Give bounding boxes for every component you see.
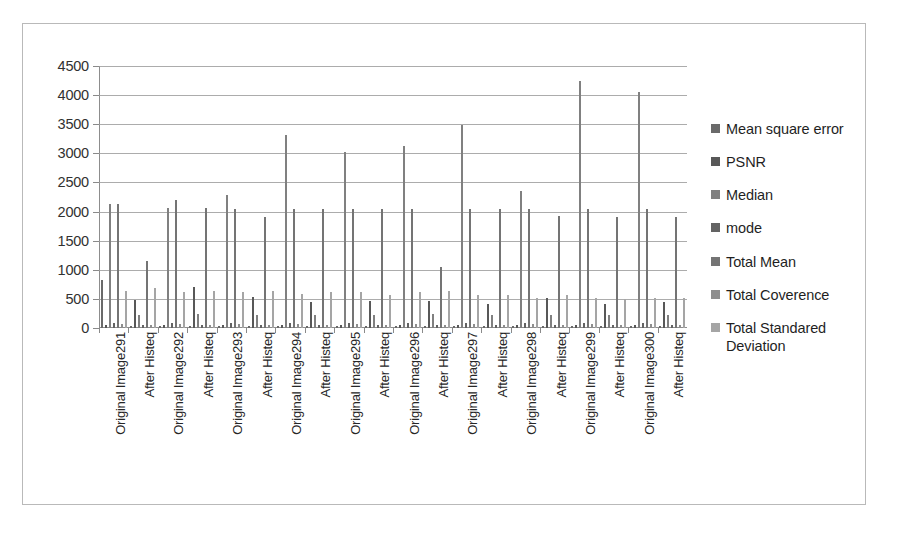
bar-group	[99, 66, 128, 328]
x-tick-label: After Histeq	[319, 332, 332, 398]
bar-chart: 450040003500300025002000150010005000 Ori…	[23, 24, 867, 506]
legend-swatch-icon	[711, 290, 720, 299]
bar	[167, 208, 169, 328]
x-tick-label: Original Image292	[172, 332, 185, 435]
bar	[134, 300, 136, 328]
bar-group	[305, 66, 334, 328]
bar	[117, 204, 119, 328]
bar-group	[275, 66, 304, 328]
x-tick-label: After Histeq	[261, 332, 274, 398]
x-tick-label: After Histeq	[378, 332, 391, 398]
bar-group	[422, 66, 451, 328]
x-label-slot: After Histeq	[364, 328, 393, 503]
x-tick-label: Original Image297	[466, 332, 479, 435]
bar	[587, 209, 589, 328]
bar	[285, 135, 287, 328]
bar	[608, 315, 610, 328]
bar-group	[364, 66, 393, 328]
bar	[499, 209, 501, 328]
x-tick-label: After Histeq	[202, 332, 215, 398]
bar	[491, 315, 493, 328]
x-tick-label: Original Image293	[231, 332, 244, 435]
bar	[550, 315, 552, 328]
legend-label: mode	[726, 219, 762, 237]
bar	[389, 295, 391, 328]
bar	[428, 301, 430, 328]
bar	[226, 195, 228, 328]
bar-group	[658, 66, 687, 328]
y-tick-label: 4000	[25, 88, 89, 103]
x-tick-label: Original Image299	[584, 332, 597, 435]
bar	[566, 295, 568, 328]
x-tick-label: After Histeq	[437, 332, 450, 398]
legend-item[interactable]: PSNR	[711, 153, 861, 171]
y-tick-label: 1000	[25, 263, 89, 278]
bar	[352, 209, 354, 328]
plot-area	[99, 66, 687, 328]
legend-label: PSNR	[726, 153, 766, 171]
legend-item[interactable]: Median	[711, 186, 861, 204]
bar	[310, 302, 312, 328]
bar	[654, 298, 656, 328]
x-tick-label: Original Image294	[290, 332, 303, 435]
bar	[616, 217, 618, 328]
bar-group	[187, 66, 216, 328]
bar	[507, 295, 509, 328]
bar-group	[452, 66, 481, 328]
x-label-slot: Original Image293	[217, 328, 246, 503]
legend-item[interactable]: Mean square error	[711, 120, 861, 138]
legend-swatch-icon	[711, 323, 720, 332]
x-tick-label: Original Image291	[114, 332, 127, 435]
legend-swatch-icon	[711, 257, 720, 266]
x-label-slot: After Histeq	[187, 328, 216, 503]
legend-item[interactable]: Total Coverence	[711, 286, 861, 304]
bar-group	[481, 66, 510, 328]
bar	[109, 204, 111, 328]
x-tick-label: After Histeq	[613, 332, 626, 398]
bar	[477, 295, 479, 328]
bar	[528, 209, 530, 328]
bar	[536, 298, 538, 328]
bar	[487, 304, 489, 328]
bar	[213, 291, 215, 328]
y-tick-label: 3000	[25, 146, 89, 161]
y-tick-label: 4500	[25, 59, 89, 74]
bar	[272, 291, 274, 328]
bar	[595, 298, 597, 328]
chart-frame: 450040003500300025002000150010005000 Ori…	[22, 23, 866, 505]
legend-item[interactable]: Total Standared Deviation	[711, 319, 861, 355]
legend-item[interactable]: mode	[711, 219, 861, 237]
x-axis-labels: Original Image291After HisteqOriginal Im…	[99, 328, 687, 503]
bar	[667, 315, 669, 328]
y-tick-label: 1500	[25, 233, 89, 248]
bar	[604, 304, 606, 328]
bar	[314, 315, 316, 328]
bar	[520, 191, 522, 328]
bar	[175, 200, 177, 328]
x-label-slot: After Histeq	[422, 328, 451, 503]
legend-swatch-icon	[711, 223, 720, 232]
x-tick-label: Original Image300	[643, 332, 656, 435]
bar	[624, 299, 626, 328]
bar	[301, 294, 303, 328]
y-tick-label: 3500	[25, 117, 89, 132]
bar	[322, 209, 324, 328]
bar	[138, 315, 140, 328]
bar-group	[128, 66, 157, 328]
x-label-slot: Original Image294	[275, 328, 304, 503]
bar	[411, 209, 413, 328]
bar-group	[540, 66, 569, 328]
x-label-slot: Original Image295	[334, 328, 363, 503]
x-tick-label: After Histeq	[672, 332, 685, 398]
x-label-slot: Original Image297	[452, 328, 481, 503]
bar	[330, 292, 332, 328]
x-label-slot: After Histeq	[599, 328, 628, 503]
bar	[101, 280, 103, 328]
legend-item[interactable]: Total Mean	[711, 253, 861, 271]
x-label-slot: After Histeq	[128, 328, 157, 503]
bar-group	[511, 66, 540, 328]
bar-group	[158, 66, 187, 328]
bar	[403, 146, 405, 328]
x-label-slot: After Histeq	[305, 328, 334, 503]
x-label-slot: After Histeq	[540, 328, 569, 503]
